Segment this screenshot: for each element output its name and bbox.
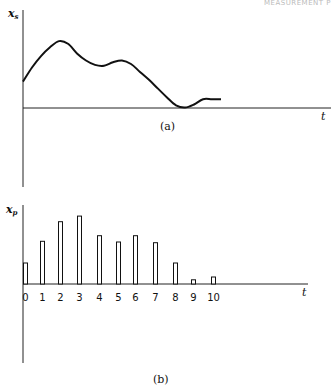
sample-bar-9: [192, 280, 196, 284]
sample-bar-10: [212, 277, 216, 284]
x-label-b: t: [302, 286, 307, 299]
y-label-a: xs: [7, 7, 19, 21]
sample-bar-2: [59, 222, 63, 284]
tick-label-6: 6: [132, 292, 138, 303]
tick-label-9: 9: [190, 292, 196, 303]
sample-bar-0: [24, 263, 28, 284]
caption-a: (a): [160, 120, 175, 133]
tick-label-2: 2: [57, 292, 63, 303]
sample-bar-6: [134, 236, 138, 284]
tick-label-3: 3: [76, 292, 82, 303]
tick-label-7: 7: [152, 292, 158, 303]
y-label-b: xp: [5, 203, 18, 217]
sample-bar-1: [41, 241, 45, 284]
panel-b: xp t 012345678910 (b): [5, 203, 308, 386]
sample-bars: [24, 216, 216, 284]
figure: MEASUREMENT P xs t (a) xp t 012345678910…: [0, 0, 336, 391]
tick-label-4: 4: [96, 292, 102, 303]
sample-bar-7: [154, 243, 158, 284]
tick-label-1: 1: [39, 292, 45, 303]
caption-b: (b): [153, 373, 169, 386]
signal-curve: [23, 41, 221, 108]
tick-label-5: 5: [115, 292, 121, 303]
tick-label-8: 8: [172, 292, 178, 303]
tick-labels: 012345678910: [22, 292, 220, 303]
sample-bar-5: [117, 242, 121, 284]
tick-label-10: 10: [207, 292, 220, 303]
sample-bar-4: [98, 236, 102, 284]
sample-bar-8: [174, 263, 178, 284]
panel-a: xs t (a): [7, 7, 331, 187]
x-label-a: t: [321, 110, 326, 123]
page-header: MEASUREMENT P: [264, 0, 331, 7]
sample-bar-3: [78, 216, 82, 284]
tick-label-0: 0: [22, 292, 28, 303]
